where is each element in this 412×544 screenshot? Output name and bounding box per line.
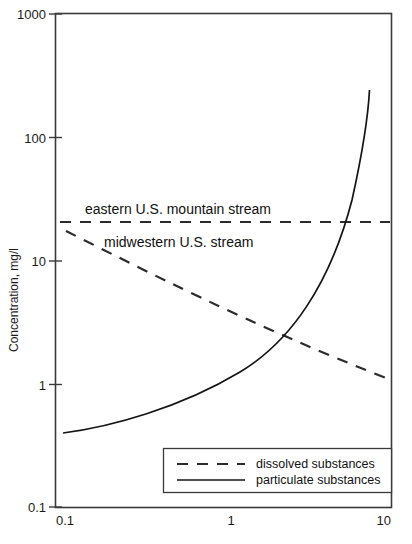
series-midwestern-us-stream (66, 231, 386, 378)
y-axis-tick-labels: 1000 100 10 1 0.1 (17, 7, 46, 515)
legend-label-particulate-substances: particulate substances (256, 473, 380, 487)
chart-page: 1000 100 10 1 0.1 0.1 1 10 Concentration… (0, 0, 412, 544)
y-axis-title: Concentration, mg/l (7, 248, 21, 352)
annotation-eastern-us-mountain-stream: eastern U.S. mountain stream (85, 201, 271, 217)
x-tick-label-1: 1 (227, 513, 234, 528)
x-tick-label-10: 10 (377, 513, 391, 528)
y-tick-label-1000: 1000 (17, 7, 46, 22)
legend-label-dissolved-substances: dissolved substances (256, 457, 375, 471)
y-tick-label-100: 100 (24, 131, 46, 146)
annotation-midwestern-us-stream: midwestern U.S. stream (104, 234, 253, 250)
chart-legend: dissolved substances particulate substan… (164, 449, 392, 493)
series-particulate-substances (63, 90, 370, 433)
x-tick-label-0.1: 0.1 (56, 513, 74, 528)
y-tick-label-1: 1 (39, 378, 46, 393)
x-axis-tick-labels: 0.1 1 10 (56, 513, 391, 528)
y-tick-label-0.1: 0.1 (28, 500, 46, 515)
concentration-vs-discharge-chart: 1000 100 10 1 0.1 0.1 1 10 Concentration… (0, 0, 412, 544)
y-tick-label-10: 10 (32, 254, 46, 269)
plot-frame (56, 14, 392, 508)
